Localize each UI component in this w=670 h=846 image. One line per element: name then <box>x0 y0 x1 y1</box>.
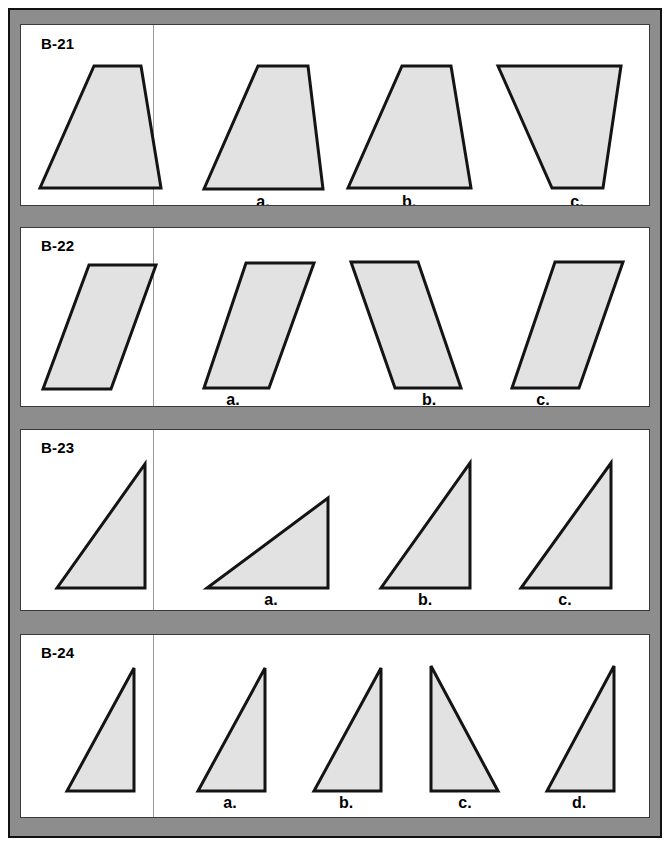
shapes-layer <box>21 635 650 818</box>
prompt-shape-narrow-triangle <box>67 668 134 791</box>
prompt-shape-right-triangle <box>57 464 145 588</box>
option-label-a[interactable]: a. <box>223 794 236 812</box>
problem-row-b-23: B-23a.b.c. <box>20 429 650 611</box>
shapes-layer <box>21 25 650 206</box>
option-shape-b[interactable] <box>348 66 471 188</box>
shapes-layer <box>21 228 650 407</box>
option-label-b[interactable]: b. <box>402 193 416 206</box>
problem-row-b-22: B-22a.b.c. <box>20 227 650 407</box>
shapes-layer <box>21 430 650 611</box>
option-shape-b[interactable] <box>351 262 461 388</box>
option-label-a[interactable]: a. <box>264 591 277 609</box>
option-shape-b[interactable] <box>381 463 470 588</box>
option-shape-a[interactable] <box>207 498 328 588</box>
option-shape-d[interactable] <box>547 666 614 791</box>
option-label-c[interactable]: c. <box>570 193 583 206</box>
option-label-c[interactable]: c. <box>558 591 571 609</box>
option-shape-c[interactable] <box>521 463 611 588</box>
prompt-shape-parallelogram <box>43 265 156 389</box>
option-label-b[interactable]: b. <box>418 591 432 609</box>
option-shape-c[interactable] <box>431 666 498 791</box>
option-shape-a[interactable] <box>204 66 323 189</box>
problem-row-b-24: B-24a.b.c.d. <box>20 634 650 818</box>
option-label-d[interactable]: d. <box>572 794 586 812</box>
option-label-a[interactable]: a. <box>226 391 239 407</box>
option-shape-b[interactable] <box>314 668 381 791</box>
option-shape-c[interactable] <box>512 262 623 388</box>
option-shape-c[interactable] <box>498 66 621 188</box>
worksheet-page: B-21a.b.c.B-22a.b.c.B-23a.b.c.B-24a.b.c.… <box>0 0 670 846</box>
option-shape-a[interactable] <box>204 263 314 388</box>
problem-row-b-21: B-21a.b.c. <box>20 24 650 206</box>
option-shape-a[interactable] <box>198 668 265 791</box>
option-label-c[interactable]: c. <box>458 794 471 812</box>
option-label-b[interactable]: b. <box>339 794 353 812</box>
option-label-a[interactable]: a. <box>256 193 269 206</box>
prompt-shape-trapezoid <box>40 66 161 188</box>
option-label-c[interactable]: c. <box>536 391 549 407</box>
option-label-b[interactable]: b. <box>422 391 436 407</box>
